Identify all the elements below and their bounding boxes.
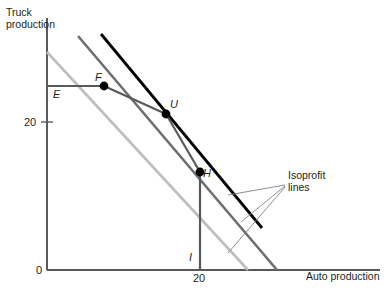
segment-U-to-H	[166, 114, 200, 172]
frontier-group	[47, 86, 200, 270]
x-axis-title: Auto production	[306, 270, 380, 282]
isoprofit-line-light	[47, 52, 248, 270]
isoprofit-lines-group	[47, 34, 277, 270]
point-label-I: I	[189, 251, 192, 264]
axes-group	[41, 18, 380, 270]
isoprofit-diagram	[0, 0, 391, 299]
point-label-H: H	[203, 167, 211, 180]
point-label-F: F	[95, 71, 102, 84]
y-axis-title: Truck production	[6, 6, 55, 31]
isoprofit-lines-annotation: Isoprofit lines	[288, 169, 325, 194]
isoprofit-line-mid	[78, 36, 277, 270]
point-label-U: U	[170, 98, 178, 111]
point-label-E: E	[53, 88, 60, 101]
y-axis-tick-label-0: 0	[36, 264, 42, 277]
y-axis-tick-label-20: 20	[24, 116, 36, 129]
figure-canvas: Truck production Auto production 20 0 20…	[0, 0, 391, 299]
x-axis-tick-label-20: 20	[193, 272, 205, 285]
